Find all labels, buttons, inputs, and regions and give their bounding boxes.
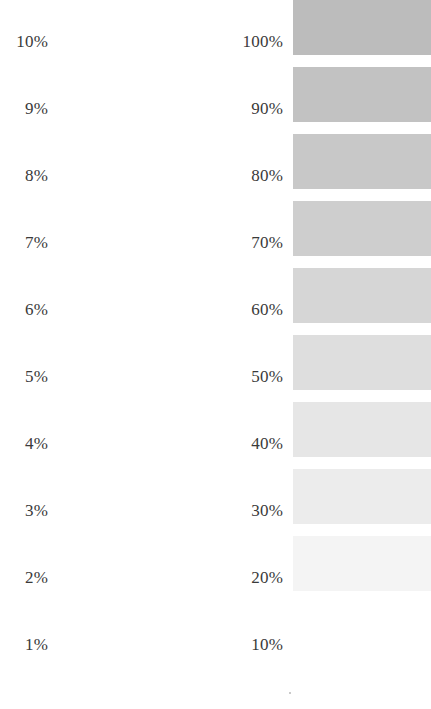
tint-row: 3% 30% [0,414,431,481]
tint-row: 7% 70% [0,146,431,213]
tint-row: 1% 10% [0,548,431,615]
tone-swatch [293,603,431,658]
tint-row: 9% 90% [0,12,431,79]
tint-row: 2% 20% [0,481,431,548]
tint-row: 5% 50% [0,280,431,347]
tint-row: 10% 100% [0,0,431,12]
tens-percent-label: 10% [180,636,283,653]
print-speck-artifact [289,692,291,694]
tint-row: 6% 60% [0,213,431,280]
units-percent-label: 1% [0,636,48,653]
tint-row: 8% 80% [0,79,431,146]
tint-row: 4% 40% [0,347,431,414]
tint-scale-chart: 10% 100% 9% 90% 8% 80% 7% 70% 6% 60% 5% … [0,0,431,709]
